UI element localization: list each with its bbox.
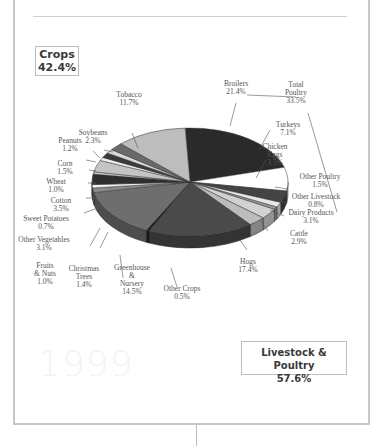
label-cotton: Cotton3.5% [51, 197, 71, 213]
leader-line [100, 232, 108, 248]
leader-line [93, 151, 100, 158]
leader-line [230, 103, 236, 126]
label-corn: Corn1.5% [57, 160, 73, 176]
label-value: 1.0% [34, 278, 56, 286]
label-wheat: Wheat1.0% [46, 178, 66, 194]
label-value: 11.7% [116, 99, 141, 107]
label-value: 3.5% [51, 205, 71, 213]
label-value: 0.5% [164, 293, 201, 301]
label-value: 0.7% [23, 223, 69, 231]
label-value: 3.1% [18, 244, 69, 252]
label-value: 1.4% [69, 281, 99, 289]
label-christmas: ChristmasTrees1.4% [69, 265, 99, 289]
label-other-veg: Other Vegetables3.1% [18, 236, 69, 252]
label-hogs: Hogs17.4% [238, 258, 257, 274]
label-total-poultry: TotalPoultry33.5% [285, 81, 307, 105]
leader-line [240, 240, 247, 250]
label-value: 1.5% [57, 168, 73, 176]
label-value: 2.9% [290, 238, 308, 246]
label-value: 3.5% [263, 159, 288, 167]
leader-line [84, 208, 98, 213]
label-soybeans: Soybeans2.3% [79, 129, 108, 145]
label-broilers: Broilers21.4% [224, 80, 248, 96]
label-other-poultry: Other Poultry1.5% [299, 173, 340, 189]
label-value: 1.2% [58, 145, 81, 153]
leader-line [90, 228, 100, 246]
label-value: 17.4% [238, 266, 257, 274]
label-value: 1.5% [299, 181, 340, 189]
label-value: 7.1% [276, 129, 300, 137]
leader-line [86, 160, 96, 162]
label-chicken-eggs: ChickenEggs3.5% [263, 143, 288, 167]
label-value: 14.5% [114, 288, 150, 296]
label-value: 33.5% [285, 97, 307, 105]
label-sweet-potatoes: Sweet Potatoes0.7% [23, 215, 69, 231]
label-other-livestock: Other Livestock0.8% [292, 193, 341, 209]
label-value: 3.1% [288, 217, 333, 225]
label-turkeys: Turkeys7.1% [276, 121, 300, 137]
label-value: 1.0% [46, 186, 66, 194]
label-value: 21.4% [224, 88, 248, 96]
label-tobacco: Tobacco11.7% [116, 91, 141, 107]
label-value: 2.3% [79, 137, 108, 145]
label-other-crops: Other Crops0.5% [164, 285, 201, 301]
label-fruits: Fruits& Nuts1.0% [34, 262, 56, 286]
label-cattle: Cattle2.9% [290, 230, 308, 246]
pie-slice-side [146, 230, 149, 243]
label-greenhouse: Greenhouse&Nursery14.5% [114, 264, 150, 296]
label-dairy: Dairy Products3.1% [288, 209, 333, 225]
